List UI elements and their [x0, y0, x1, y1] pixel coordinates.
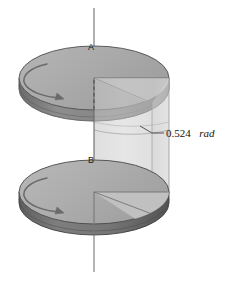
disk-b-label: B	[88, 155, 94, 165]
physics-figure-container: A	[0, 0, 229, 282]
rotating-disks-diagram: A	[0, 0, 229, 282]
angle-value: 0.524	[166, 127, 191, 139]
disk-a-label: A	[88, 42, 94, 52]
angle-unit: rad	[199, 127, 215, 139]
